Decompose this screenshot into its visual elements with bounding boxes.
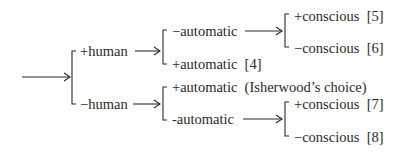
ref-4: [4] bbox=[245, 56, 262, 72]
plus-human-label: +human bbox=[80, 43, 128, 59]
decision-tree-diagram: +human −human −automatic +automatic [4] … bbox=[0, 0, 407, 156]
upper-minus-conscious-text: −conscious bbox=[294, 40, 359, 56]
upper-plus-automatic-text: +automatic bbox=[172, 56, 237, 72]
upper-minus-automatic-arrow bbox=[245, 27, 282, 35]
lower-plus-automatic-label: +automatic (Isherwood’s choice) bbox=[172, 79, 367, 95]
lower-minus-automatic-label: -automatic bbox=[172, 111, 234, 127]
upper-conscious-bracket bbox=[285, 14, 289, 47]
upper-plus-conscious-label: +conscious [5] bbox=[294, 8, 384, 24]
upper-plus-automatic-label: +automatic [4] bbox=[172, 56, 262, 72]
lower-minus-conscious-text: −conscious bbox=[294, 129, 359, 145]
isherwoods-choice-note: (Isherwood’s choice) bbox=[245, 79, 367, 95]
ref-7: [7] bbox=[367, 96, 384, 112]
minus-human-label: −human bbox=[80, 96, 128, 112]
upper-plus-conscious-text: +conscious bbox=[294, 8, 359, 24]
plus-human-arrow bbox=[135, 47, 160, 55]
ref-5: [5] bbox=[367, 8, 384, 24]
plus-human-bracket bbox=[163, 30, 167, 64]
root-bracket bbox=[72, 51, 76, 104]
upper-minus-automatic-label: −automatic bbox=[172, 23, 237, 39]
ref-6: [6] bbox=[367, 40, 384, 56]
lower-plus-conscious-label: +conscious [7] bbox=[294, 96, 384, 112]
lower-conscious-bracket bbox=[285, 102, 289, 136]
minus-human-arrow bbox=[133, 100, 160, 108]
upper-minus-conscious-label: −conscious [6] bbox=[294, 40, 384, 56]
lower-plus-automatic-text: +automatic bbox=[172, 79, 237, 95]
lower-plus-conscious-text: +conscious bbox=[294, 96, 359, 112]
lower-minus-conscious-label: −conscious [8] bbox=[294, 129, 384, 145]
root-arrow bbox=[22, 73, 70, 81]
ref-8: [8] bbox=[367, 129, 384, 145]
lower-minus-automatic-arrow bbox=[243, 115, 282, 123]
minus-human-bracket bbox=[163, 87, 167, 120]
